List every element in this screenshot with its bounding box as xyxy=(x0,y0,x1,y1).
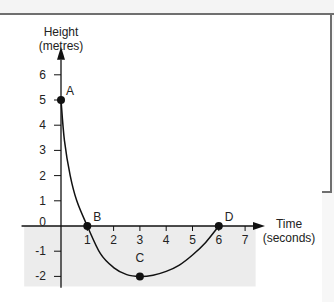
y-axis-label: Height xyxy=(44,25,79,39)
point-b xyxy=(83,222,91,230)
y-tick-label: -1 xyxy=(35,244,46,258)
y-tick-label: 0 xyxy=(39,215,46,229)
x-tick-label: 5 xyxy=(189,233,196,247)
y-tick-label: 3 xyxy=(39,143,46,157)
chart: 12345676543210-1-2 ABCD Height (metres) … xyxy=(0,0,334,302)
x-tick-label: 4 xyxy=(163,233,170,247)
y-tick-label: 6 xyxy=(39,68,46,82)
y-tick-label: 5 xyxy=(39,93,46,107)
point-a xyxy=(57,96,65,104)
point-d xyxy=(215,222,223,230)
y-axis-label-unit: (metres) xyxy=(39,39,84,53)
point-label-d: D xyxy=(225,210,234,224)
point-c xyxy=(136,272,144,280)
x-tick-label: 1 xyxy=(84,233,91,247)
y-tick-label: 2 xyxy=(39,169,46,183)
x-axis-label-unit: (seconds) xyxy=(263,231,316,245)
x-tick-label: 6 xyxy=(215,233,222,247)
y-tick-label: 4 xyxy=(39,118,46,132)
x-tick-label: 7 xyxy=(242,233,249,247)
x-axis-arrow-icon xyxy=(253,222,265,230)
x-axis-label: Time xyxy=(276,217,303,231)
point-label-b: B xyxy=(93,210,101,224)
y-tick-label: -2 xyxy=(35,269,46,283)
x-tick-label: 3 xyxy=(137,233,144,247)
point-label-c: C xyxy=(136,251,145,265)
y-tick-label: 1 xyxy=(39,194,46,208)
x-tick-label: 2 xyxy=(110,233,117,247)
point-label-a: A xyxy=(66,84,74,98)
